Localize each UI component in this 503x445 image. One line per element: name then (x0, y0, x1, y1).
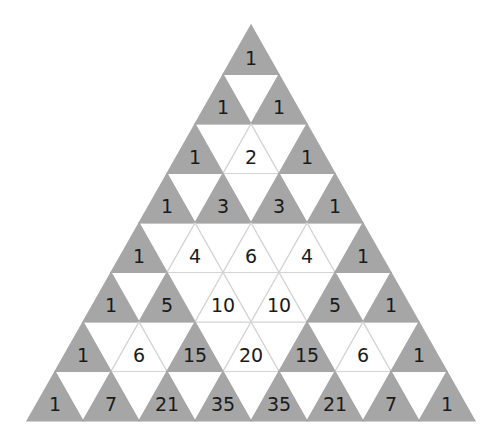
pascal-triangle-svg: 1111211331146411510105116152015611721353… (0, 0, 503, 445)
cell-value: 1 (441, 393, 453, 415)
cell-value: 3 (217, 195, 229, 217)
cell-value: 21 (323, 393, 347, 415)
pascal-cell: 1 (223, 25, 279, 75)
cell-value: 3 (273, 195, 285, 217)
cell-value: 1 (161, 195, 173, 217)
cell-value: 1 (133, 245, 145, 267)
cell-value: 1 (245, 47, 257, 69)
cell-value: 1 (385, 294, 397, 316)
cell-value: 1 (301, 146, 313, 168)
cell-value: 7 (105, 393, 117, 415)
cell-value: 15 (295, 344, 319, 366)
cell-value: 10 (211, 294, 235, 316)
cell-value: 5 (329, 294, 341, 316)
cell-value: 6 (133, 344, 145, 366)
cell-value: 35 (211, 393, 235, 415)
cell-value: 4 (189, 245, 201, 267)
cell-value: 15 (183, 344, 207, 366)
cell-value: 1 (273, 96, 285, 118)
cell-value: 1 (357, 245, 369, 267)
cell-value: 5 (161, 294, 173, 316)
cell-value: 6 (357, 344, 369, 366)
cell-value: 1 (217, 96, 229, 118)
pascal-triangle-diagram: 1111211331146411510105116152015611721353… (0, 0, 503, 445)
cell-value: 1 (329, 195, 341, 217)
cell-value: 21 (155, 393, 179, 415)
cell-value: 4 (301, 245, 313, 267)
cell-value: 20 (239, 344, 263, 366)
cell-value: 2 (245, 146, 257, 168)
cell-value: 1 (105, 294, 117, 316)
cell-value: 6 (245, 245, 257, 267)
cell-value: 1 (413, 344, 425, 366)
cell-value: 1 (77, 344, 89, 366)
cell-value: 10 (267, 294, 291, 316)
cell-value: 7 (385, 393, 397, 415)
cell-value: 35 (267, 393, 291, 415)
cell-value: 1 (49, 393, 61, 415)
cell-value: 1 (189, 146, 201, 168)
